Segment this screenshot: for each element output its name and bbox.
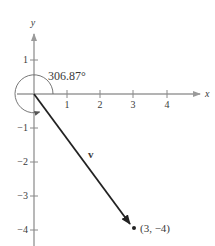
vector-label: v <box>88 148 94 160</box>
x-tick-label: 4 <box>165 99 170 110</box>
x-tick-label: 2 <box>98 99 103 110</box>
y-tick-label: −1 <box>17 122 28 133</box>
angle-label: 306.87° <box>48 69 86 83</box>
y-tick-label: −3 <box>17 190 28 201</box>
vector-diagram: 1 2 3 4 1 −1 −2 −3 −4 y x 306.87° v (3, … <box>0 0 215 246</box>
x-tick-label: 1 <box>65 99 70 110</box>
y-tick-label: −4 <box>17 224 28 235</box>
y-tick-label: −2 <box>17 156 28 167</box>
terminal-point <box>132 226 136 230</box>
x-tick-label: 3 <box>131 99 136 110</box>
x-axis-label: x <box>204 88 210 99</box>
point-label: (3, −4) <box>140 222 170 235</box>
y-tick-label: 1 <box>23 54 28 65</box>
y-axis-label: y <box>30 17 36 28</box>
vector-v <box>34 94 130 224</box>
